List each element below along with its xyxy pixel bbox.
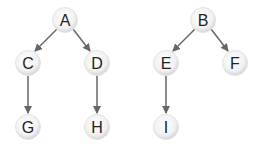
node-f: F [223, 51, 248, 76]
node-h: H [85, 115, 110, 140]
svg-text:A: A [60, 12, 71, 29]
svg-text:E: E [161, 55, 172, 72]
svg-text:C: C [22, 55, 34, 72]
svg-text:B: B [198, 12, 209, 29]
node-b: B [191, 8, 216, 33]
svg-text:H: H [91, 119, 103, 136]
edge-b-e [173, 29, 195, 51]
edge-a-d [73, 29, 90, 51]
edge-a-c [35, 29, 57, 51]
node-e: E [154, 51, 179, 76]
node-c: C [16, 51, 41, 76]
tree-diagram: A C D G H B E F I [0, 0, 262, 146]
svg-text:I: I [164, 119, 168, 136]
node-i: I [154, 115, 179, 140]
node-g: G [16, 115, 41, 140]
svg-text:G: G [22, 119, 34, 136]
edge-b-f [211, 29, 228, 51]
node-d: D [85, 51, 110, 76]
node-a: A [53, 8, 78, 33]
svg-text:F: F [230, 55, 240, 72]
svg-text:D: D [91, 55, 103, 72]
